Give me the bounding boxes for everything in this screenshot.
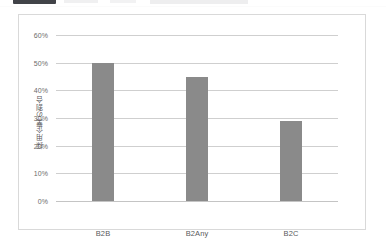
- bar-chart-container: 採用企業の割合 0%10%20%30%40%50%60%B2BB2AnyB2C: [18, 14, 366, 230]
- x-axis-tick-label-b2any: B2Any: [186, 221, 209, 238]
- bar-b2any[interactable]: [186, 77, 208, 202]
- y-axis-tick-label: 10%: [34, 170, 48, 177]
- toolbar-ghost-item-2[interactable]: [110, 0, 136, 3]
- bar-b2b[interactable]: [92, 63, 114, 201]
- y-axis-tick-label: 60%: [34, 32, 48, 39]
- y-axis-tick-label: 0%: [38, 198, 48, 205]
- y-axis-tick-label: 30%: [34, 115, 48, 122]
- gridline-0pct: [56, 201, 338, 202]
- y-axis-tick-label: 20%: [34, 142, 48, 149]
- plot-area: 0%10%20%30%40%50%60%B2BB2AnyB2C: [56, 35, 338, 201]
- toolbar-ghost-item-1[interactable]: [64, 0, 98, 3]
- y-axis-tick-label: 40%: [34, 87, 48, 94]
- x-axis-tick-label-b2b: B2B: [96, 221, 110, 238]
- y-axis-tick-label: 50%: [34, 59, 48, 66]
- toolbar-dark-chip[interactable]: [13, 0, 56, 4]
- toolbar-ghost-item-3[interactable]: [150, 0, 248, 4]
- x-axis-tick-label-b2c: B2C: [284, 221, 299, 238]
- bar-b2c[interactable]: [280, 121, 302, 201]
- gridline-60pct: [56, 35, 338, 36]
- truncated-toolbar-strip: [0, 0, 386, 7]
- y-axis-title: 採用企業の割合: [35, 95, 45, 148]
- toolbar-divider: [0, 6, 386, 7]
